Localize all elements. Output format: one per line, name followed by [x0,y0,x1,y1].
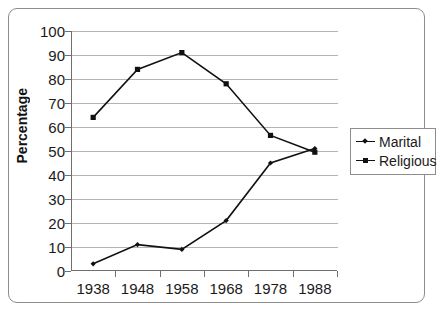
gridline [72,175,338,176]
y-axis-tick-label: 90 [25,48,65,63]
x-axis-tick-mark [204,271,205,277]
gridline [72,55,338,56]
y-axis-tick-label: 100 [25,24,65,39]
y-axis-tick-label: 50 [25,144,65,159]
gridline [72,127,338,128]
y-axis-tick-label: 10 [25,240,65,255]
plot-area [71,31,337,271]
legend-item-religious[interactable]: Religious [355,151,432,170]
chart-legend: Marital Religious [350,128,436,175]
gridline [72,151,338,152]
x-axis-tick-mark [115,271,116,277]
gridline [72,103,338,104]
y-axis-tick-label: 40 [25,168,65,183]
y-axis-tick-label: 0 [25,264,65,279]
religious-series-icon [355,155,376,167]
gridline [72,223,338,224]
y-axis-tick-label: 30 [25,192,65,207]
y-axis-tick-label: 20 [25,216,65,231]
x-axis-tick-mark [293,271,294,277]
gridline [72,79,338,80]
marital-series-icon [355,136,376,148]
gridline [72,31,338,32]
x-axis-tick-label: 1988 [288,281,342,296]
gridline [72,247,338,248]
y-axis-tick-label: 60 [25,120,65,135]
chart-figure: Percentage 0102030405060708090100 193819… [0,0,443,323]
legend-item-marital[interactable]: Marital [355,132,432,151]
y-axis-tick-mark [65,271,71,272]
gridline [72,199,338,200]
y-axis-tick-label: 80 [25,72,65,87]
x-axis-tick-mark [337,271,338,277]
x-axis-tick-mark [248,271,249,277]
y-axis-tick-label: 70 [25,96,65,111]
legend-label-marital: Marital [379,135,421,149]
x-axis-tick-mark [160,271,161,277]
legend-label-religious: Religious [379,154,437,168]
